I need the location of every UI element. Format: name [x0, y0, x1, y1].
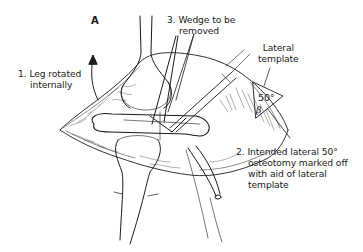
annotation-leg-rotated: 1. Leg rotated internally	[18, 68, 81, 90]
annotation-line: template	[258, 53, 299, 64]
annotation-line: with aid of lateral	[236, 168, 348, 179]
lateral-template	[253, 68, 290, 138]
annotation-osteotomy: 2. Intended lateral 50° osteotomy marked…	[236, 146, 348, 190]
annotation-line: template	[236, 179, 348, 190]
template-beta-symbol: β	[256, 104, 262, 115]
surgical-illustration: A 1. Leg rotated internally 3. Wedge to …	[0, 0, 363, 252]
rotation-arrow	[89, 55, 98, 100]
annotation-line: internally	[18, 79, 81, 90]
femur	[121, 16, 171, 110]
knee-osteotomy-drawing	[0, 0, 363, 252]
retractor	[186, 146, 222, 242]
annotation-wedge: 3. Wedge to be removed	[167, 14, 235, 36]
annotation-line: osteotomy marked off	[236, 157, 348, 168]
panel-label: A	[91, 15, 99, 26]
annotation-line: 1. Leg rotated	[18, 68, 81, 79]
tibia	[114, 136, 160, 245]
annotation-line: 3. Wedge to be	[167, 14, 235, 25]
template-angle: 50°	[258, 92, 275, 103]
annotation-template: Lateral template	[258, 42, 299, 64]
annotation-line: removed	[167, 25, 235, 36]
saw-instrument	[170, 50, 250, 132]
annotation-line: Lateral	[258, 42, 299, 53]
annotation-line: 2. Intended lateral 50°	[236, 146, 348, 157]
